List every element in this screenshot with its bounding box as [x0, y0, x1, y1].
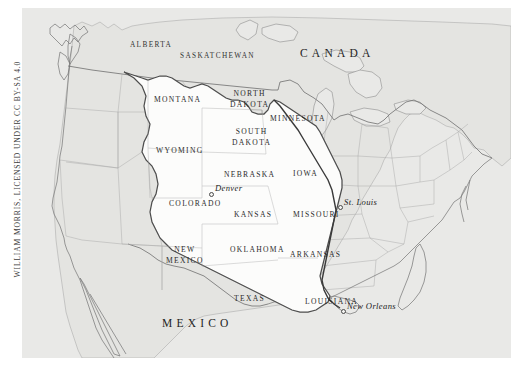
province-label-alberta: ALBERTA: [130, 41, 172, 48]
state-label-wyoming: WYOMING: [156, 147, 203, 155]
city-label-new-orleans: New Orleans: [347, 302, 396, 311]
city-label-denver: Denver: [215, 184, 242, 193]
map-labels-layer: CANADA MEXICO ALBERTA SASKATCHEWAN MONTA…: [22, 8, 511, 358]
city-marker-st-louis: [338, 205, 343, 210]
attribution-text: WILLIAM MORRIS, LICENSED UNDER CC BY-SA …: [13, 68, 22, 278]
city-marker-new-orleans: [341, 309, 346, 314]
state-label-texas: TEXAS: [234, 295, 265, 303]
state-label-south-dakota-line1: SOUTH: [232, 126, 271, 137]
state-label-montana: MONTANA: [154, 96, 201, 104]
state-label-oklahoma: OKLAHOMA: [230, 246, 285, 254]
state-label-north-dakota-line1: NORTH: [230, 88, 269, 99]
map-canvas[interactable]: .land { fill:#e4e4e1; stroke:#9a9a9a; st…: [22, 8, 511, 358]
country-label-canada: CANADA: [300, 48, 374, 60]
map-page: WILLIAM MORRIS, LICENSED UNDER CC BY-SA …: [0, 0, 511, 373]
state-label-north-dakota: NORTH DAKOTA: [230, 88, 269, 110]
city-marker-denver: [209, 192, 214, 197]
state-label-new-mexico: NEW MEXICO: [166, 244, 204, 266]
state-label-south-dakota: SOUTH DAKOTA: [232, 126, 271, 148]
state-label-north-dakota-line2: DAKOTA: [230, 99, 269, 110]
state-label-arkansas: ARKANSAS: [290, 251, 341, 259]
state-label-nebraska: NEBRASKA: [224, 171, 275, 179]
state-label-iowa: IOWA: [293, 170, 318, 178]
country-label-mexico: MEXICO: [162, 318, 233, 330]
state-label-minnesota: MINNESOTA: [270, 115, 326, 123]
state-label-colorado: COLORADO: [169, 200, 222, 208]
state-label-new-mexico-line2: MEXICO: [166, 255, 204, 266]
state-label-missouri: MISSOURI: [293, 211, 340, 219]
city-label-st-louis: St. Louis: [344, 198, 377, 207]
province-label-saskatchewan: SASKATCHEWAN: [180, 52, 255, 59]
state-label-south-dakota-line2: DAKOTA: [232, 137, 271, 148]
state-label-new-mexico-line1: NEW: [166, 244, 204, 255]
state-label-kansas: KANSAS: [234, 211, 272, 219]
